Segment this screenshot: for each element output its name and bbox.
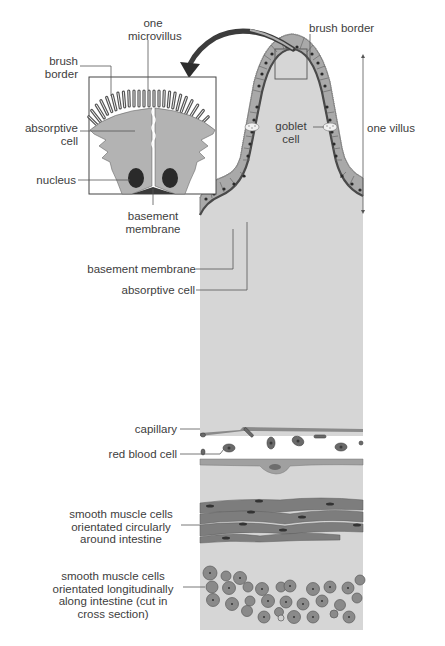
label-line: cell xyxy=(10,135,78,148)
label-goblet-cell: goblet cell xyxy=(270,120,312,145)
label-one-microvillus: one microvillus xyxy=(128,17,178,42)
label-nucleus: nucleus xyxy=(20,174,76,187)
label-inset-basement-membrane: basement membrane xyxy=(121,210,185,235)
label-line: smooth muscle cells xyxy=(58,508,184,521)
label-one-villus: one villus xyxy=(367,122,415,135)
label-red-blood-cell: red blood cell xyxy=(70,448,177,461)
label-longitudinal-muscle: smooth muscle cells orientated longitudi… xyxy=(42,570,184,620)
label-line: border xyxy=(30,68,78,81)
label-line: cross section) xyxy=(42,608,184,621)
intestine-diagram: one microvillus brush border absorptive … xyxy=(0,0,445,646)
label-line: microvillus xyxy=(128,30,178,43)
label-line: basement xyxy=(121,210,185,223)
label-line: one xyxy=(128,17,178,30)
label-line: smooth muscle cells xyxy=(42,570,184,583)
label-circular-muscle: smooth muscle cells orientated circularl… xyxy=(58,508,184,546)
label-line: orientated circularly xyxy=(58,521,184,534)
label-inset-brush-border: brush border xyxy=(30,55,78,80)
label-line: orientated longitudinally xyxy=(42,583,184,596)
inset-detail xyxy=(87,77,216,194)
diagram-illustration xyxy=(0,0,445,646)
label-capillary: capillary xyxy=(100,423,177,436)
label-absorptive-cell: absorptive cell xyxy=(90,284,195,297)
label-line: goblet xyxy=(270,120,312,133)
label-basement-membrane: basement membrane xyxy=(60,263,196,276)
label-line: absorptive xyxy=(10,122,78,135)
label-villus-brush-border: brush border xyxy=(309,22,374,35)
label-line: around intestine xyxy=(58,533,184,546)
circular-muscle-layer xyxy=(200,498,363,543)
label-inset-absorptive-cell: absorptive cell xyxy=(10,122,78,147)
label-line: cell xyxy=(270,133,312,146)
label-line: membrane xyxy=(121,223,185,236)
label-line: brush xyxy=(30,55,78,68)
label-line: along intestine (cut in xyxy=(42,595,184,608)
